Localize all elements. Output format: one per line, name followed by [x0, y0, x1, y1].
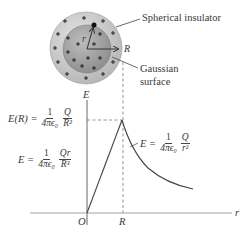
eq-inside-frac: Qr R³ [59, 149, 72, 170]
equation-inside: E = 1 4πϵ₀ Qr R³ [18, 149, 71, 170]
eq-peak-frac-den: R² [62, 119, 73, 129]
eq-inside-lhs: E = [18, 154, 34, 165]
eq-outside-frac-den: r² [181, 144, 190, 154]
point-marker-icon [92, 23, 97, 28]
spherical-insulator [50, 12, 122, 84]
R-tick-label: R [119, 217, 125, 228]
spherical-insulator-label: Spherical insulator [142, 13, 221, 24]
eq-peak-frac: Q R² [62, 108, 73, 129]
equation-peak: E(R) = 1 4πϵ₀ Q R² [8, 108, 73, 129]
origin-label: O [78, 217, 86, 228]
gaussian-surface-label-line2: surface [140, 77, 170, 88]
eq-peak-lhs: E(R) = [8, 113, 38, 124]
eq-peak-coef: 1 4πϵ₀ [41, 108, 60, 129]
equation-outside: E = 1 4πϵ₀ Q r² [140, 133, 190, 154]
eq-peak-coef-den: 4πϵ₀ [41, 119, 60, 129]
x-axis-label: r [235, 208, 239, 219]
gaussian-surface-label-line1: Gaussian [140, 64, 179, 75]
eq-outside-coef: 1 4πϵ₀ [159, 133, 178, 154]
radius-R-label: R [124, 44, 130, 54]
eq-outside-frac: Q r² [181, 133, 190, 154]
leader-line-insulator [116, 19, 140, 27]
eq-outside-coef-den: 4πϵ₀ [159, 144, 178, 154]
eq-inside-coef: 1 4πϵ₀ [37, 149, 56, 170]
eq-inside-frac-den: R³ [60, 160, 71, 170]
y-axis-label: E [83, 90, 89, 101]
radius-r-label: r [82, 35, 86, 45]
eq-inside-coef-den: 4πϵ₀ [37, 160, 56, 170]
eq-outside-lhs: E = [140, 138, 156, 149]
